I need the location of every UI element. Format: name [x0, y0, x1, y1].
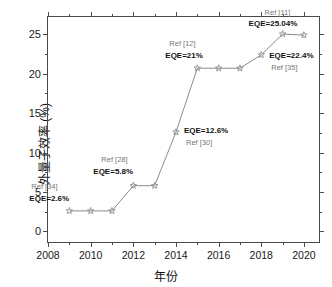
x-axis-title: 年份: [154, 267, 178, 284]
data-point-marker: [66, 208, 72, 214]
x-tick-label: 2008: [36, 249, 59, 261]
annotation-ref: Ref [28]: [101, 156, 127, 165]
annotation-ref: Ref [11]: [265, 9, 291, 18]
x-tick-label: 2012: [122, 249, 145, 261]
plot-area: 0510152025 2008201020122014201620182020 …: [47, 16, 320, 243]
annotation-eqe: EQE=5.8%: [93, 167, 133, 176]
annotation-ref: Ref [12]: [169, 40, 195, 49]
annotation-eqe: EQE=2.6%: [29, 194, 69, 203]
x-tick-label: 2018: [250, 249, 273, 261]
x-tick-label: 2014: [164, 249, 187, 261]
series-line: [69, 34, 304, 211]
y-tick-label: 10: [29, 147, 41, 159]
chart-figure: 外量子效率 (%) 年份 0510152025 2008201020122014…: [0, 0, 332, 287]
annotation-ref: Ref [34]: [31, 183, 57, 192]
y-tick-label: 0: [35, 225, 41, 237]
annotation-eqe: EQE=21%: [165, 51, 203, 60]
x-tick-label: 2016: [207, 249, 230, 261]
annotation-eqe: EQE=12.6%: [184, 126, 228, 135]
y-tick-label: 15: [29, 107, 41, 119]
y-tick-label: 25: [29, 28, 41, 40]
annotation-eqe: EQE=22.4%: [269, 51, 313, 60]
x-tick-label: 2010: [79, 249, 102, 261]
x-tick-label: 2020: [292, 249, 315, 261]
y-tick-label: 20: [29, 68, 41, 80]
annotation-ref: Ref [30]: [186, 139, 212, 148]
annotation-eqe: EQE=25.04%: [249, 19, 298, 28]
annotation-ref: Ref [35]: [271, 64, 297, 73]
